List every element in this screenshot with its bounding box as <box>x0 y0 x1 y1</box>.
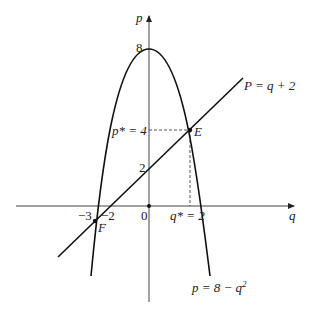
y-axis-label: p <box>135 10 143 25</box>
p-star-label: p* = 4 <box>111 123 147 138</box>
point-F-label: F <box>97 220 107 235</box>
line-equation-label: P = q + 2 <box>243 78 296 93</box>
parabola-curve <box>91 49 210 276</box>
q-star-label: q* = 2 <box>170 208 205 223</box>
tick-x-neg3: −3 <box>78 208 92 223</box>
point-F <box>93 219 97 223</box>
supply-demand-diagram: p q 0 8 2 −3 −2 p* = 4 q* = 2 E F P = q … <box>0 0 312 314</box>
point-E <box>188 128 192 132</box>
point-E-label: E <box>193 124 202 139</box>
origin-label: 0 <box>141 208 148 223</box>
parabola-label-sup: 2 <box>242 279 247 289</box>
parabola-equation-label: p = 8 − q2 <box>191 279 247 295</box>
parabola-label-base: p = 8 − q <box>191 280 243 295</box>
tick-y-8: 8 <box>136 40 143 55</box>
origin-point <box>147 204 151 208</box>
linear-curve <box>58 78 243 257</box>
x-axis-label: q <box>289 208 296 223</box>
tick-y-2: 2 <box>139 160 146 175</box>
